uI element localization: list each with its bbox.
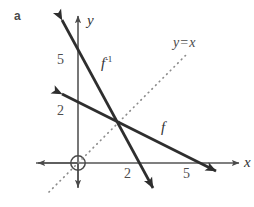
y-tick-label-5: 5 xyxy=(57,53,64,67)
curve-label-f-inverse-exponent: -1 xyxy=(105,54,112,64)
x-tick-label-5: 5 xyxy=(183,167,190,181)
x-axis-label: x xyxy=(244,155,251,170)
curve-label-f-inverse: f-1 xyxy=(101,55,112,71)
reference-line-label: y=x xyxy=(173,36,195,50)
curve-label-f: f xyxy=(161,120,165,135)
figure-panel: a y x 5 2 2 5 f-1 f y=x xyxy=(0,0,254,207)
x-tick-label-2: 2 xyxy=(124,167,131,181)
panel-letter: a xyxy=(14,10,21,22)
reference-line-label-x: x xyxy=(189,35,195,50)
y-tick-label-2: 2 xyxy=(57,104,64,118)
y-axis-label: y xyxy=(87,13,94,28)
reference-line-label-equals: = xyxy=(179,35,189,50)
